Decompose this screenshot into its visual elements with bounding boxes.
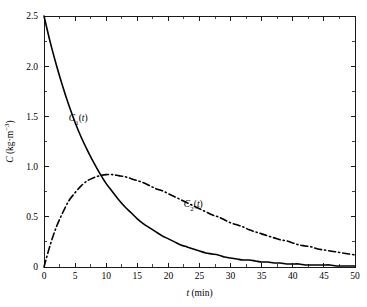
- x-tick-label: 15: [133, 271, 143, 281]
- x-tick-label: 45: [319, 271, 329, 281]
- y-tick-label: 1.5: [26, 112, 38, 122]
- y-tick-label: 2.0: [26, 62, 38, 72]
- x-tick-label: 40: [288, 271, 298, 281]
- y-tick-label: 1.0: [26, 162, 38, 172]
- chart-background: [0, 0, 367, 307]
- x-tick-label: 20: [164, 271, 174, 281]
- y-tick-label: 0.5: [26, 212, 38, 222]
- x-tick-label: 35: [257, 271, 267, 281]
- chart-figure: 05101520253035404550 00.51.01.52.02.5 C1…: [0, 0, 367, 307]
- x-tick-label: 25: [195, 271, 205, 281]
- x-tick-label: 30: [226, 271, 236, 281]
- y-tick-label: 2.5: [26, 11, 38, 21]
- y-tick-label: 0: [33, 262, 38, 272]
- x-tick-label: 5: [73, 271, 78, 281]
- x-tick-label: 10: [101, 271, 111, 281]
- x-tick-label: 0: [42, 271, 47, 281]
- x-axis-title: t (min): [186, 288, 212, 299]
- line-chart: 05101520253035404550 00.51.01.52.02.5 C1…: [0, 0, 367, 307]
- x-tick-label: 50: [350, 271, 360, 281]
